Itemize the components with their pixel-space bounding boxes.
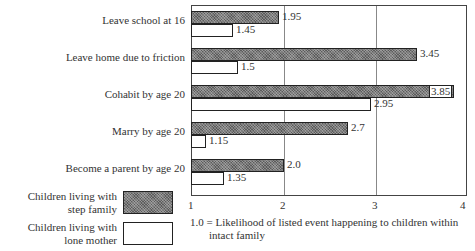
- note-line1: 1.0 = Likelihood of listed event happeni…: [190, 216, 470, 229]
- legend-lone-line2: lone mother: [28, 234, 117, 247]
- bar-step-family: [191, 85, 454, 98]
- value-label: 3.85: [429, 85, 452, 98]
- legend-label-lone-mother: Children living with lone mother: [28, 221, 117, 247]
- legend-swatch-lone-mother: [123, 222, 173, 245]
- x-tick-label: 2: [280, 199, 286, 211]
- bar-lone-mother: [191, 61, 238, 74]
- value-label: 2.95: [374, 97, 393, 109]
- category-label: Marry by age 20: [112, 125, 185, 137]
- annotation-note: 1.0 = Likelihood of listed event happeni…: [190, 216, 470, 242]
- value-label: 2.7: [351, 121, 365, 133]
- legend-step-line1: Children living with: [28, 190, 117, 203]
- x-tick-label: 3: [372, 199, 378, 211]
- bar-lone-mother: [191, 24, 233, 37]
- x-tick-label: 1: [188, 199, 194, 211]
- bar-lone-mother: [191, 172, 224, 185]
- plot-area: 1.951.453.451.53.852.952.71.152.01.35: [191, 5, 467, 196]
- x-tick-label: 4: [460, 199, 466, 211]
- bar-lone-mother: [191, 98, 371, 111]
- value-label: 1.95: [282, 10, 301, 22]
- value-label: 1.35: [227, 171, 246, 183]
- category-label: Cohabit by age 20: [105, 88, 185, 100]
- legend-step-line2: step family: [28, 203, 117, 216]
- bar-step-family: [191, 11, 279, 24]
- bar-lone-mother: [191, 135, 206, 148]
- note-line2: intact family: [190, 229, 470, 242]
- category-label: Become a parent by age 20: [66, 162, 185, 174]
- value-label: 1.45: [236, 23, 255, 35]
- value-label: 3.45: [420, 47, 439, 59]
- value-label: 2.0: [287, 158, 301, 170]
- legend-swatch-step-family: [123, 191, 173, 214]
- value-label: 1.5: [241, 60, 255, 72]
- category-label: Leave home due to friction: [66, 51, 185, 63]
- category-label: Leave school at 16: [102, 14, 185, 26]
- bar-step-family: [191, 48, 417, 61]
- legend-label-step-family: Children living with step family: [28, 190, 117, 216]
- value-label: 1.15: [209, 134, 228, 146]
- legend-lone-line1: Children living with: [28, 221, 117, 234]
